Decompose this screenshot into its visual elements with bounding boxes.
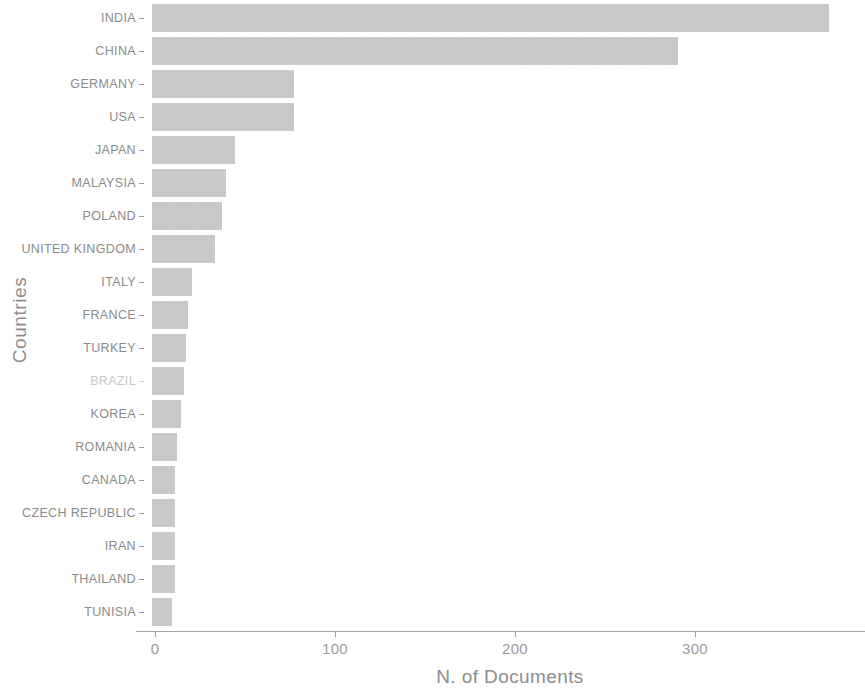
bar: [152, 301, 188, 329]
y-tick-mark: [139, 249, 144, 250]
y-tick-label: THAILAND: [71, 563, 136, 596]
bar: [152, 367, 184, 395]
x-axis-line: [136, 631, 865, 632]
bar: [152, 169, 226, 197]
bar: [152, 565, 175, 593]
y-tick-mark: [139, 315, 144, 316]
bar: [152, 433, 177, 461]
y-tick-label: GERMANY: [70, 68, 136, 101]
y-tick-label: ITALY: [101, 266, 136, 299]
y-tick-mark: [139, 183, 144, 184]
y-tick-label: UNITED KINGDOM: [21, 233, 136, 266]
y-tick-label: TUNISIA: [84, 596, 136, 629]
bar: [152, 37, 678, 65]
y-tick-mark: [139, 117, 144, 118]
x-tick-label: 200: [502, 640, 528, 657]
bar: [152, 499, 175, 527]
y-tick-mark: [139, 216, 144, 217]
bar: [152, 334, 186, 362]
y-tick-label: KOREA: [90, 398, 136, 431]
y-tick-label: JAPAN: [95, 134, 136, 167]
y-tick-mark: [139, 282, 144, 283]
x-tick-mark: [695, 631, 696, 637]
y-tick-mark: [139, 480, 144, 481]
y-tick-mark: [139, 381, 144, 382]
y-tick-label: INDIA: [101, 2, 136, 35]
y-tick-mark: [139, 84, 144, 85]
y-tick-label: POLAND: [82, 200, 136, 233]
y-tick-label: TURKEY: [83, 332, 136, 365]
y-tick-label-group: INDIACHINAGERMANYUSAJAPANMALAYSIAPOLANDU…: [0, 0, 146, 628]
y-tick-label: BRAZIL: [90, 365, 136, 398]
y-tick-label: MALAYSIA: [72, 167, 136, 200]
y-tick-label: CZECH REPUBLIC: [22, 497, 136, 530]
y-tick-mark: [139, 414, 144, 415]
bar: [152, 103, 294, 131]
bar: [152, 136, 235, 164]
bar: [152, 400, 181, 428]
x-tick-label: 100: [322, 640, 348, 657]
bar: [152, 466, 175, 494]
bar: [152, 235, 215, 263]
y-tick-label: ROMANIA: [75, 431, 136, 464]
plot-area: [152, 0, 865, 628]
bar-chart: Countries INDIACHINAGERMANYUSAJAPANMALAY…: [0, 0, 865, 699]
y-tick-mark: [139, 348, 144, 349]
y-tick-mark: [139, 579, 144, 580]
bar: [152, 4, 829, 32]
y-tick-label: USA: [109, 101, 136, 134]
x-tick-label: 0: [151, 640, 160, 657]
bar: [152, 70, 294, 98]
y-tick-label: CANADA: [82, 464, 136, 497]
bar: [152, 202, 222, 230]
x-tick-label: 300: [682, 640, 708, 657]
x-tick-mark: [155, 631, 156, 637]
y-tick-mark: [139, 612, 144, 613]
y-tick-mark: [139, 447, 144, 448]
y-tick-mark: [139, 51, 144, 52]
y-tick-mark: [139, 150, 144, 151]
x-tick-mark: [515, 631, 516, 637]
x-axis-title: N. of Documents: [155, 666, 865, 688]
y-tick-mark: [139, 513, 144, 514]
bar: [152, 268, 192, 296]
y-tick-label: IRAN: [105, 530, 136, 563]
y-tick-mark: [139, 18, 144, 19]
bar: [152, 598, 172, 626]
x-tick-mark: [335, 631, 336, 637]
y-tick-label: FRANCE: [83, 299, 137, 332]
y-tick-mark: [139, 546, 144, 547]
y-tick-label: CHINA: [95, 35, 136, 68]
bar: [152, 532, 175, 560]
